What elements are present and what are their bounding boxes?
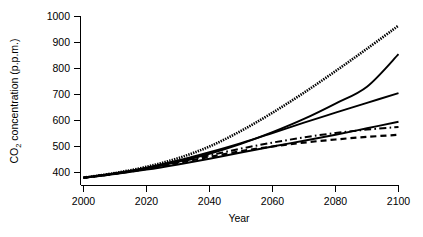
y-tick-label-400: 400 xyxy=(52,166,70,178)
y-tick-label-900: 900 xyxy=(52,36,70,48)
y-axis-title-suffix: concentration (p.p.m.) xyxy=(8,39,20,144)
co2-concentration-chart: 1000 900 800 700 600 500 400 2000 2020 2… xyxy=(0,0,423,237)
x-axis-title: Year xyxy=(228,212,250,224)
y-tick-label-700: 700 xyxy=(52,88,70,100)
series-line-a2 xyxy=(84,54,399,178)
y-tick-label-600: 600 xyxy=(52,114,70,126)
y-tick-label-1000: 1000 xyxy=(47,10,71,22)
x-tick-label-2040: 2040 xyxy=(198,195,222,207)
x-axis-ticks xyxy=(84,186,399,193)
svg-text:CO2 concentration (p.p.m.): CO2 concentration (p.p.m.) xyxy=(8,39,23,164)
series-line-a1b xyxy=(84,93,399,178)
x-tick-label-2020: 2020 xyxy=(135,195,159,207)
series-line-a1fi xyxy=(84,26,399,178)
chart-canvas: 1000 900 800 700 600 500 400 2000 2020 2… xyxy=(0,0,423,237)
x-tick-label-2060: 2060 xyxy=(261,195,285,207)
y-tick-label-800: 800 xyxy=(52,62,70,74)
y-tick-label-500: 500 xyxy=(52,140,70,152)
y-axis-title: CO2 concentration (p.p.m.) xyxy=(8,39,23,164)
x-tick-label-2100: 2100 xyxy=(387,195,411,207)
y-axis-title-prefix: CO xyxy=(8,148,20,164)
x-tick-label-2080: 2080 xyxy=(324,195,348,207)
x-tick-label-2000: 2000 xyxy=(72,195,96,207)
y-axis-ticks xyxy=(74,17,81,173)
series-group xyxy=(84,26,399,178)
